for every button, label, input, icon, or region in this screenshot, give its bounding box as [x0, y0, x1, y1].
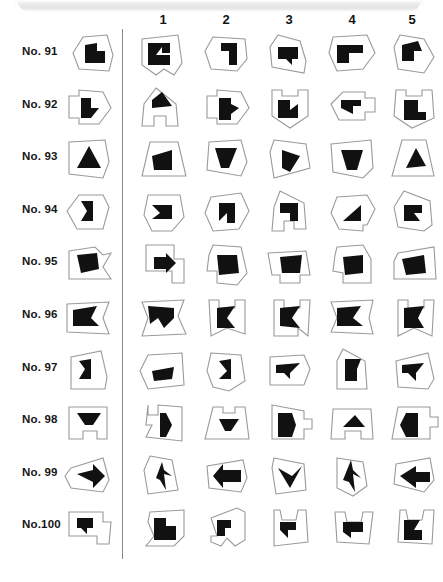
option-2-row-92[interactable] [196, 82, 258, 134]
option-3-row-91[interactable] [259, 29, 321, 81]
option-shape-glyph [322, 292, 384, 344]
option-4-row-99[interactable] [322, 450, 384, 502]
option-2-row-91[interactable] [196, 29, 258, 81]
option-1-row-97[interactable] [133, 345, 195, 397]
column-header-5: 5 [400, 12, 424, 27]
option-shape-glyph [196, 292, 258, 344]
option-3-row-97[interactable] [259, 345, 321, 397]
option-shape-glyph [322, 187, 384, 239]
option-3-row-96[interactable] [259, 292, 321, 344]
option-shape-glyph [383, 239, 443, 291]
option-2-row-95[interactable] [196, 239, 258, 291]
option-4-row-94[interactable] [322, 187, 384, 239]
column-header-3: 3 [277, 12, 301, 27]
option-4-row-96[interactable] [322, 292, 384, 344]
option-1-row-98[interactable] [133, 397, 195, 449]
reference-shape-glyph [58, 29, 120, 81]
option-3-row-94[interactable] [259, 187, 321, 239]
option-shape-glyph [322, 502, 384, 554]
reference-shape-95 [58, 239, 120, 291]
option-5-row-93[interactable] [383, 134, 443, 186]
option-shape-glyph [133, 187, 195, 239]
top-banner [18, 0, 420, 11]
option-shape-glyph [383, 29, 443, 81]
option-5-row-100[interactable] [383, 502, 443, 554]
option-shape-glyph [383, 82, 443, 134]
option-2-row-96[interactable] [196, 292, 258, 344]
option-4-row-97[interactable] [322, 345, 384, 397]
option-shape-glyph [259, 450, 321, 502]
option-1-row-92[interactable] [133, 82, 195, 134]
option-shape-glyph [133, 29, 195, 81]
option-3-row-92[interactable] [259, 82, 321, 134]
option-3-row-95[interactable] [259, 239, 321, 291]
option-4-row-93[interactable] [322, 134, 384, 186]
option-shape-glyph [322, 345, 384, 397]
table-row: No. 95 [0, 239, 437, 291]
option-shape-glyph [259, 239, 321, 291]
reference-shape-94 [58, 187, 120, 239]
option-shape-glyph [259, 292, 321, 344]
option-shape-glyph [196, 187, 258, 239]
shape-figure [280, 255, 302, 273]
option-4-row-91[interactable] [322, 29, 384, 81]
option-2-row-98[interactable] [196, 397, 258, 449]
option-shape-glyph [322, 450, 384, 502]
option-5-row-94[interactable] [383, 187, 443, 239]
option-5-row-96[interactable] [383, 292, 443, 344]
column-header-1: 1 [151, 12, 175, 27]
table-row: No. 99 [0, 450, 437, 502]
shape-figure [343, 255, 363, 275]
option-1-row-96[interactable] [133, 292, 195, 344]
option-3-row-100[interactable] [259, 502, 321, 554]
option-shape-glyph [133, 502, 195, 554]
option-2-row-93[interactable] [196, 134, 258, 186]
table-row: No. 94 [0, 187, 437, 239]
option-3-row-93[interactable] [259, 134, 321, 186]
table-row: No. 91 [0, 29, 437, 81]
option-shape-glyph [322, 397, 384, 449]
option-shape-glyph [196, 82, 258, 134]
option-4-row-100[interactable] [322, 502, 384, 554]
reference-shape-97 [58, 345, 120, 397]
option-shape-glyph [133, 345, 195, 397]
option-4-row-92[interactable] [322, 82, 384, 134]
option-5-row-95[interactable] [383, 239, 443, 291]
option-shape-glyph [133, 450, 195, 502]
reference-shape-93 [58, 134, 120, 186]
option-3-row-99[interactable] [259, 450, 321, 502]
option-5-row-92[interactable] [383, 82, 443, 134]
option-4-row-98[interactable] [322, 397, 384, 449]
option-5-row-98[interactable] [383, 397, 443, 449]
reference-shape-glyph [58, 82, 120, 134]
option-5-row-99[interactable] [383, 450, 443, 502]
option-1-row-93[interactable] [133, 134, 195, 186]
option-2-row-97[interactable] [196, 345, 258, 397]
option-shape-glyph [133, 292, 195, 344]
option-2-row-99[interactable] [196, 450, 258, 502]
table-row: No. 96 [0, 292, 437, 344]
option-2-row-100[interactable] [196, 502, 258, 554]
table-row: No. 92 [0, 82, 437, 134]
option-1-row-94[interactable] [133, 187, 195, 239]
option-shape-glyph [259, 134, 321, 186]
option-4-row-95[interactable] [322, 239, 384, 291]
option-3-row-98[interactable] [259, 397, 321, 449]
option-2-row-94[interactable] [196, 187, 258, 239]
option-5-row-97[interactable] [383, 345, 443, 397]
option-1-row-100[interactable] [133, 502, 195, 554]
reference-shape-glyph [58, 345, 120, 397]
reference-shape-99 [58, 450, 120, 502]
option-5-row-91[interactable] [383, 29, 443, 81]
reference-shape-glyph [58, 502, 120, 554]
option-1-row-95[interactable] [133, 239, 195, 291]
table-row: No. 93 [0, 134, 437, 186]
option-shape-glyph [259, 345, 321, 397]
column-header-4: 4 [340, 12, 364, 27]
option-shape-glyph [259, 502, 321, 554]
option-1-row-91[interactable] [133, 29, 195, 81]
option-1-row-99[interactable] [133, 450, 195, 502]
option-shape-glyph [196, 345, 258, 397]
option-shape-glyph [383, 397, 443, 449]
